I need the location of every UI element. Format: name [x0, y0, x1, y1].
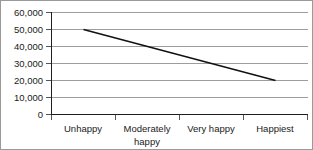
x-tick-labels: Unhappy Moderately happy Very happy Happ… [64, 123, 294, 147]
y-tick-label-30000: 30,000 [14, 58, 43, 69]
line-chart: 60,000 50,000 40,000 30,000 20,000 10,00… [1, 1, 312, 149]
y-tick-marks [46, 13, 51, 115]
y-tick-label-60000: 60,000 [14, 7, 43, 18]
data-series-group [84, 30, 276, 81]
x-tick-label-happiest: Happiest [256, 123, 294, 134]
chart-figure: 60,000 50,000 40,000 30,000 20,000 10,00… [0, 0, 313, 150]
x-tick-marks [52, 115, 308, 121]
y-tick-labels: 60,000 50,000 40,000 30,000 20,000 10,00… [14, 7, 43, 120]
x-tick-label-moderately-happy-line2: happy [134, 136, 160, 147]
y-tick-label-40000: 40,000 [14, 41, 43, 52]
y-tick-label-50000: 50,000 [14, 24, 43, 35]
x-tick-label-unhappy: Unhappy [64, 123, 102, 134]
y-tick-label-20000: 20,000 [14, 75, 43, 86]
y-tick-label-0: 0 [38, 109, 43, 120]
data-series-line [84, 30, 276, 81]
x-tick-label-very-happy: Very happy [187, 123, 235, 134]
y-tick-label-10000: 10,000 [14, 92, 43, 103]
x-tick-label-moderately-happy-line1: Moderately [124, 123, 171, 134]
